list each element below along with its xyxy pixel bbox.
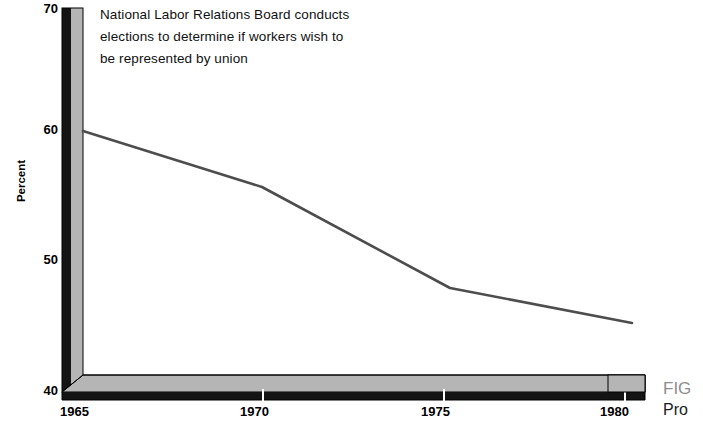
x-tick-1975: [443, 389, 445, 401]
figure-caption-label: FIG: [663, 378, 703, 399]
data-line-union-election-percent: [83, 131, 632, 323]
y-tick-label-50: 50: [22, 253, 58, 266]
x-tick-label-1975: 1975: [421, 405, 450, 419]
annotation-line-1: National Labor Relations Board conducts: [100, 4, 400, 26]
x-tick-label-1965: 1965: [60, 405, 89, 419]
y-axis-title: Percent: [15, 136, 27, 226]
x-tick-label-1980: 1980: [600, 405, 629, 419]
x-tick-1970: [262, 389, 264, 401]
y-tick-label-70: 70: [22, 2, 58, 15]
annotation-line-2: elections to determine if workers wish t…: [100, 26, 400, 48]
annotation-line-3: be represented by union: [100, 48, 400, 70]
x-axis-dark-face: [62, 392, 645, 400]
figure-caption-text: Pro: [663, 399, 703, 420]
x-axis-gray-face: [62, 375, 645, 392]
figure-caption: FIG Pro: [663, 378, 703, 420]
caption-swatch: [608, 375, 645, 392]
y-axis-gray-face: [71, 8, 83, 392]
y-tick-label-40: 40: [22, 384, 58, 397]
x-tick-label-1970: 1970: [240, 405, 269, 419]
y-axis-dark-face: [62, 8, 71, 392]
y-tick-label-60: 60: [22, 123, 58, 136]
figure-container: 70 60 50 40 Percent 1965 1970 1975 1980 …: [0, 0, 703, 423]
chart-annotation-note: National Labor Relations Board conducts …: [100, 4, 400, 70]
